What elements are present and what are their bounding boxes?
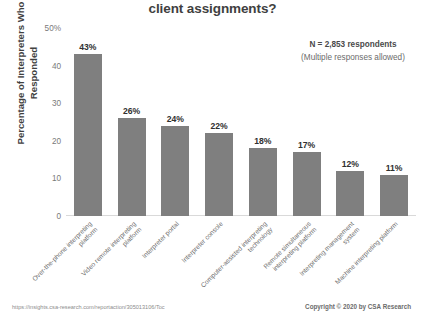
footer-copyright: Copyright © 2020 by CSA Research	[305, 303, 411, 310]
bar-value-label: 11%	[386, 163, 403, 173]
bar-value-label: 22%	[211, 121, 228, 131]
bar-slot: 17%	[293, 28, 321, 216]
y-tick-label: 30	[27, 99, 61, 108]
y-tick-label: 0	[27, 212, 61, 221]
bar-value-label: 18%	[254, 136, 271, 146]
bar[interactable]	[336, 171, 364, 216]
bar[interactable]	[74, 54, 102, 216]
bar-slot: 26%	[118, 28, 146, 216]
bar[interactable]	[249, 148, 277, 216]
bar[interactable]	[118, 118, 146, 216]
bar[interactable]	[380, 175, 408, 216]
bar-value-label: 17%	[298, 140, 315, 150]
bar-slot: 22%	[205, 28, 233, 216]
y-tick-label: 20	[27, 136, 61, 145]
bar-value-label: 26%	[123, 106, 140, 116]
y-tick-label: 10	[27, 174, 61, 183]
bar[interactable]	[293, 152, 321, 216]
y-tick-label: 40	[27, 61, 61, 70]
bar-slot: 12%	[336, 28, 364, 216]
bar-value-label: 24%	[167, 114, 184, 124]
bar-value-label: 43%	[79, 42, 96, 52]
bar-value-label: 12%	[342, 159, 359, 169]
chart-title: client assignments?	[0, 1, 425, 16]
bar-slot: 24%	[161, 28, 189, 216]
footer-source-url[interactable]: https://insights.csa-research.com/report…	[12, 304, 165, 310]
plot-area: 01020304050% 43%26%24%22%18%17%12%11%	[66, 28, 416, 216]
y-tick-label: 50%	[27, 24, 61, 33]
bar[interactable]	[205, 133, 233, 216]
bar-slot: 11%	[380, 28, 408, 216]
bar-slot: 18%	[249, 28, 277, 216]
bar-slot: 43%	[74, 28, 102, 216]
bar[interactable]	[161, 126, 189, 216]
